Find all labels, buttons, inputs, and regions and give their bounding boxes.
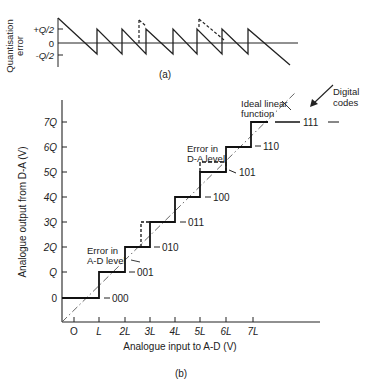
y-axis-label: Analogue output from D-A (V) bbox=[17, 146, 28, 277]
xtick-6l: 6L bbox=[220, 326, 231, 337]
xtick-3l: 3L bbox=[144, 326, 155, 337]
xtick-7l: 7L bbox=[247, 326, 258, 337]
ideal-label-2: function bbox=[241, 108, 274, 119]
code-010: 010 bbox=[162, 242, 179, 253]
xtick-5l: 5L bbox=[194, 326, 205, 337]
code-111: 111 bbox=[303, 117, 319, 128]
ytick-3q: 3Q bbox=[44, 217, 58, 228]
code-011: 011 bbox=[188, 217, 204, 228]
code-101: 101 bbox=[239, 167, 256, 178]
code-100: 100 bbox=[213, 192, 230, 203]
ad-error-label-2: A-D level bbox=[87, 255, 126, 266]
xtick-4l: 4L bbox=[169, 326, 180, 337]
x-axis-label: Analogue input to A-D (V) bbox=[123, 341, 236, 352]
ytick-5q: 5Q bbox=[44, 167, 58, 178]
sawtooth-error bbox=[58, 18, 290, 65]
code-001: 001 bbox=[137, 267, 154, 278]
caption-b: (b) bbox=[175, 368, 187, 379]
ytick-q: Q bbox=[49, 267, 57, 278]
panel-a: Quantisation error +Q/2 0 -Q/2 (a) bbox=[4, 18, 298, 80]
y-ticks: 0 Q 2Q 3Q 4Q 5Q 6Q 7Q bbox=[43, 117, 67, 304]
ideal-linear-line bbox=[62, 92, 296, 322]
tick-zero: 0 bbox=[49, 38, 54, 49]
digital-label-2: codes bbox=[333, 97, 359, 108]
xtick-l: L bbox=[96, 326, 102, 337]
x-ticks: O L 2L 3L 4L 5L 6L 7L bbox=[70, 317, 258, 337]
code-000: 000 bbox=[112, 293, 129, 304]
digital-label-1: Digital bbox=[333, 86, 359, 97]
panel-b: 0 Q 2Q 3Q 4Q 5Q 6Q 7Q O L 2L 3L 4L 5L 6L bbox=[17, 85, 359, 379]
caption-a: (a) bbox=[159, 69, 171, 80]
tick-plus-q2: +Q/2 bbox=[33, 24, 55, 35]
ytick-0: 0 bbox=[51, 293, 57, 304]
ytick-2q: 2Q bbox=[43, 242, 58, 253]
xtick-0: O bbox=[70, 326, 78, 337]
ytick-6q: 6Q bbox=[44, 142, 58, 153]
quantisation-diagram: Quantisation error +Q/2 0 -Q/2 (a) bbox=[0, 0, 369, 385]
panel-a-ylabel-2: error bbox=[14, 36, 25, 56]
da-error-label-2: D-A level bbox=[187, 153, 225, 164]
xtick-2l: 2L bbox=[118, 326, 130, 337]
code-110: 110 bbox=[263, 141, 279, 152]
annotations: Ideal linear function Digital codes Erro… bbox=[87, 85, 359, 266]
staircase-transfer bbox=[62, 122, 268, 298]
ytick-4q: 4Q bbox=[44, 192, 58, 203]
tick-minus-q2: -Q/2 bbox=[36, 50, 55, 61]
ytick-7q: 7Q bbox=[44, 117, 58, 128]
